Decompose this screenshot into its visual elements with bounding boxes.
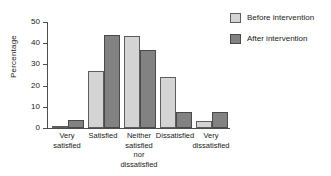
bar-group-satisfied [88,22,120,128]
x-axis-line [47,128,230,129]
y-tick-50: 50 [43,22,47,23]
y-tick-label-0: 0 [36,123,40,132]
bar-chart-figure: Percentage 0 10 20 30 40 50 [0,0,331,176]
bar-after-dissatisfied [176,112,192,128]
bar-before-satisfied [88,71,104,128]
x-label-line: nor [115,150,163,160]
bar-before-dissatisfied [160,77,176,128]
bar-after-neither [140,50,156,128]
bar-after-very-dissatisfied [212,112,228,128]
legend-swatch-icon-after [230,34,241,44]
x-label-very-dissatisfied: Very dissatisfied [187,131,235,150]
x-label-line: dissatisfied [115,160,163,170]
legend-label-before: Before intervention [247,13,314,23]
chart-legend: Before intervention After intervention [230,13,331,55]
legend-item-before: Before intervention [230,13,331,23]
bar-before-neither [124,36,140,128]
y-tick-label-40: 40 [31,38,40,47]
y-tick-label-20: 20 [31,81,40,90]
y-tick-label-30: 30 [31,59,40,68]
legend-swatch-icon-before [230,13,241,23]
bar-after-satisfied [104,35,120,128]
plot-area: 0 10 20 30 40 50 [47,22,230,128]
bar-group-very-dissatisfied [196,22,228,128]
bar-group-neither [124,22,156,128]
y-tick-0: 0 [43,128,47,129]
x-label-line: satisfied [115,141,163,151]
y-tick-20: 20 [43,86,47,87]
bar-before-very-dissatisfied [196,121,212,128]
y-tick-40: 40 [43,43,47,44]
bars-container [48,22,230,128]
x-axis-labels: Very satisfied Satisfied Neither satisfi… [47,131,230,176]
y-tick-10: 10 [43,107,47,108]
x-label-line: satisfied [43,141,91,151]
y-axis-title: Percentage [9,22,18,92]
y-tick-30: 30 [43,64,47,65]
bar-after-very-satisfied [68,120,84,128]
legend-item-after: After intervention [230,34,331,44]
bar-before-very-satisfied [52,126,68,128]
legend-label-after: After intervention [247,34,307,44]
y-tick-label-50: 50 [31,17,40,26]
x-label-line: Very [187,131,235,141]
bar-group-very-satisfied [52,22,84,128]
y-tick-label-10: 10 [31,102,40,111]
x-label-line: dissatisfied [187,141,235,151]
bar-group-dissatisfied [160,22,192,128]
